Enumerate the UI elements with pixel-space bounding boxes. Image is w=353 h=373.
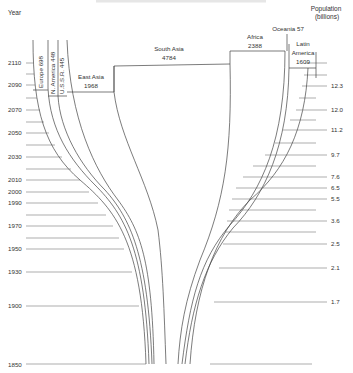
tick-2110: 2110 — [8, 59, 22, 66]
left-axis: 2110 2090 2070 2050 2030 2010 2000 1990 … — [8, 59, 22, 368]
tick-9.7: 9.7 — [331, 151, 340, 158]
label-africa-name: Africa — [247, 33, 263, 40]
latam-right-edge — [190, 68, 308, 364]
label-latam-value: 1609 — [296, 58, 310, 65]
tick-1850: 1850 — [8, 361, 22, 368]
eastasia-southasia-boundary — [114, 66, 166, 364]
southasia-africa-boundary — [178, 64, 230, 364]
tick-2030: 2030 — [8, 153, 22, 160]
tick-1930: 1930 — [8, 268, 22, 275]
oceania-latam-boundary — [185, 44, 289, 364]
label-europe: Europe 698 — [37, 55, 44, 88]
label-oceania: Oceania 57 — [272, 25, 304, 32]
tick-1.7: 1.7 — [331, 298, 340, 305]
africa-oceania-boundary — [182, 51, 285, 364]
label-namerica: N. America 448 — [49, 51, 56, 94]
tick-5.5: 5.5 — [331, 195, 340, 202]
tick-2050: 2050 — [8, 129, 22, 136]
right-axis: 12.3 12.0 11.2 9.7 7.6 6.5 5.5 3.6 2.5 2… — [331, 82, 344, 305]
tick-1900: 1900 — [8, 302, 22, 309]
label-africa-value: 2388 — [248, 42, 262, 49]
tick-2010: 2010 — [8, 176, 22, 183]
tick-2000: 2000 — [8, 188, 22, 195]
label-latam-1: Latin — [296, 40, 310, 47]
label-southasia-value: 4784 — [162, 54, 176, 61]
label-ussr: U.S.S.R. 445 — [58, 57, 65, 94]
tick-1970: 1970 — [8, 222, 22, 229]
tick-2.1: 2.1 — [331, 264, 340, 271]
tick-11.2: 11.2 — [331, 126, 343, 133]
label-eastasia-value: 1968 — [84, 82, 98, 89]
right-grid — [210, 63, 327, 364]
tick-2070: 2070 — [8, 106, 22, 113]
tick-7.6: 7.6 — [331, 173, 340, 180]
label-latam-2: America — [292, 49, 315, 56]
tick-6.5: 6.5 — [331, 184, 340, 191]
right-axis-title-1: Population — [311, 5, 342, 13]
label-southasia-name: South Asia — [154, 45, 184, 52]
population-funnel-chart: Year Population (billions) 2110 2090 207… — [0, 0, 353, 373]
tick-2.5: 2.5 — [331, 240, 340, 247]
tick-12.3: 12.3 — [331, 82, 344, 89]
tick-12.0: 12.0 — [331, 106, 344, 113]
tick-1990: 1990 — [8, 199, 22, 206]
funnel-right — [178, 44, 308, 364]
left-axis-title: Year — [8, 9, 22, 16]
left-grid — [26, 63, 146, 364]
right-axis-title-2: (billions) — [315, 13, 339, 21]
tick-3.6: 3.6 — [331, 217, 340, 224]
tick-2090: 2090 — [8, 81, 22, 88]
clipped-title — [96, 0, 266, 3]
label-eastasia-name: East Asia — [78, 73, 104, 80]
tick-1950: 1950 — [8, 245, 22, 252]
